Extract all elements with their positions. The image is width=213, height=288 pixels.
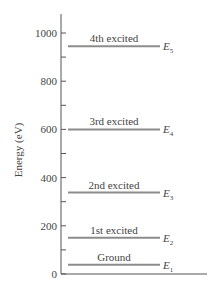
- energy-levels: GroundE11st excitedE22nd excitedE33rd ex…: [68, 32, 174, 274]
- tick-label: 400: [41, 172, 58, 184]
- level-name: 2nd excited: [88, 179, 140, 191]
- energy-level: GroundE1: [68, 251, 174, 274]
- energy-level: 4th excitedE5: [68, 32, 174, 55]
- energy-level: 3rd excitedE4: [68, 115, 174, 138]
- y-axis-title: Energy (eV): [12, 122, 25, 177]
- energy-axis: 02004006008001000: [35, 14, 207, 280]
- tick-label: 600: [41, 123, 58, 135]
- level-symbol: E4: [162, 123, 174, 138]
- tick-label: 200: [41, 220, 58, 232]
- tick-label: 1000: [35, 27, 58, 39]
- level-name: 1st excited: [90, 224, 138, 236]
- level-symbol: E3: [162, 187, 174, 202]
- tick-label: 800: [41, 75, 58, 87]
- level-name: 4th excited: [90, 32, 139, 44]
- level-symbol: E2: [162, 232, 174, 247]
- level-name: Ground: [97, 251, 131, 263]
- level-symbol: E1: [162, 259, 174, 274]
- tick-label: 0: [52, 268, 58, 280]
- energy-level: 1st excitedE2: [68, 224, 174, 247]
- energy-level-diagram: 02004006008001000 GroundE11st excitedE22…: [0, 0, 213, 288]
- level-symbol: E5: [162, 40, 174, 55]
- level-name: 3rd excited: [89, 115, 139, 127]
- energy-level: 2nd excitedE3: [68, 179, 174, 202]
